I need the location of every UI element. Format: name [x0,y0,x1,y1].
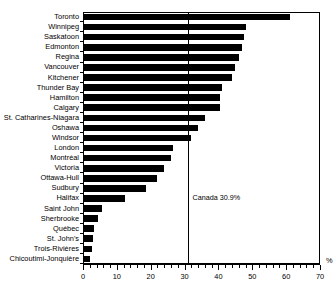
x-axis-minor-tick [273,265,274,268]
x-axis-tick-label: 0 [81,272,85,281]
bar-row-label: Oshawa [52,124,79,132]
x-axis-minor-tick [239,265,240,268]
x-axis-major-tick [151,265,152,270]
bar [83,246,92,253]
bar-row: Sherbrooke [83,214,320,224]
bar-row: Vancouver [83,62,320,72]
x-axis-major-tick [320,265,321,270]
bar-row: Edmonton [83,42,320,52]
x-axis-minor-tick [191,265,192,268]
bar-row-label: London [54,144,79,152]
bar [83,185,146,192]
x-axis-minor-tick [144,265,145,268]
bar-row: London [83,143,320,153]
bar [83,135,191,142]
bar [83,34,244,41]
bar-row-label: Edmonton [45,43,79,51]
bar [83,215,98,222]
bar-row: Hamilton [83,93,320,103]
bar [83,145,173,152]
bar [83,24,246,31]
bar [83,125,198,132]
x-axis-minor-tick [137,265,138,268]
x-axis-minor-tick [205,265,206,268]
bar-row: Trois-Rivières [83,244,320,254]
bar-row-label: Victoria [54,164,79,172]
bar-row: Windsor [83,133,320,143]
x-axis-tick-label: 60 [282,272,290,281]
x-axis-major-tick [185,265,186,270]
bar-row-label: Sudbury [51,184,79,192]
bar-row-label: Halifax [56,194,79,202]
bar-row-label: Trois-Rivières [34,245,79,253]
bar-row-label: Thunder Bay [37,84,79,92]
x-axis-minor-tick [225,265,226,268]
bar-row-label: Saskatoon [44,33,79,41]
x-axis-minor-tick [232,265,233,268]
x-axis-minor-tick [124,265,125,268]
bar-row: Regina [83,52,320,62]
bar-chart: TorontoWinnipegSaskatoonEdmontonReginaVa… [0,0,336,297]
x-axis-line [83,264,320,265]
bar [83,195,125,202]
x-axis-major-tick [83,265,84,270]
bar-row: Thunder Bay [83,83,320,93]
x-axis-minor-tick [300,265,301,268]
bar-row: Toronto [83,12,320,22]
bar-row: Kitchener [83,72,320,82]
x-axis-unit-label: % [326,256,333,265]
bar-row-label: Vancouver [44,63,79,71]
bar-row: Oshawa [83,123,320,133]
bar-row-label: Winnipeg [48,23,79,31]
bar-row: St. Catharines-Niagara [83,113,320,123]
bar-row-label: Saint John [44,205,79,213]
bar [83,175,157,182]
bar-row: Sudbury [83,183,320,193]
x-axis-minor-tick [171,265,172,268]
bar-row-label: Toronto [54,13,79,21]
bar-row: Calgary [83,103,320,113]
x-axis-minor-tick [313,265,314,268]
bar-row-label: Windsor [52,134,79,142]
x-axis-major-tick [117,265,118,270]
x-axis-minor-tick [212,265,213,268]
bar-row-label: St. John's [47,235,79,243]
bar-row: Saskatoon [83,32,320,42]
bar-row-label: Sherbrooke [41,215,79,223]
plot-area: TorontoWinnipegSaskatoonEdmontonReginaVa… [83,12,320,264]
x-axis-minor-tick [103,265,104,268]
bar-row-label: Regina [56,53,79,61]
x-axis-minor-tick [157,265,158,268]
x-axis-minor-tick [90,265,91,268]
bar [83,256,90,263]
bar [83,54,239,61]
bar-row: Victoria [83,163,320,173]
bar [83,155,171,162]
x-axis-tick-label: 30 [180,272,188,281]
bar-row: Chicoutimi-Jonquière [83,254,320,264]
bar-row-label: Montréal [50,154,79,162]
bar-row-label: Ottawa-Hull [40,174,79,182]
bar-row: Winnipeg [83,22,320,32]
bar-row-label: Chicoutimi-Jonquière [10,255,79,263]
x-axis-tick-label: 10 [113,272,121,281]
bar [83,94,220,101]
x-axis-minor-tick [266,265,267,268]
bar [83,235,93,242]
x-axis-tick-label: 50 [248,272,256,281]
x-axis-tick-label: 70 [316,272,324,281]
bar-row-label: Kitchener [48,74,79,82]
x-axis-minor-tick [306,265,307,268]
x-axis-minor-tick [246,265,247,268]
x-axis-minor-tick [259,265,260,268]
x-axis-minor-tick [279,265,280,268]
bar [83,74,232,81]
bar [83,205,102,212]
x-axis-minor-tick [164,265,165,268]
bar [83,64,235,71]
bar-row-label: Québec [53,225,79,233]
x-axis-major-tick [286,265,287,270]
x-axis-tick-label: 40 [214,272,222,281]
x-axis-minor-tick [198,265,199,268]
x-axis-minor-tick [130,265,131,268]
